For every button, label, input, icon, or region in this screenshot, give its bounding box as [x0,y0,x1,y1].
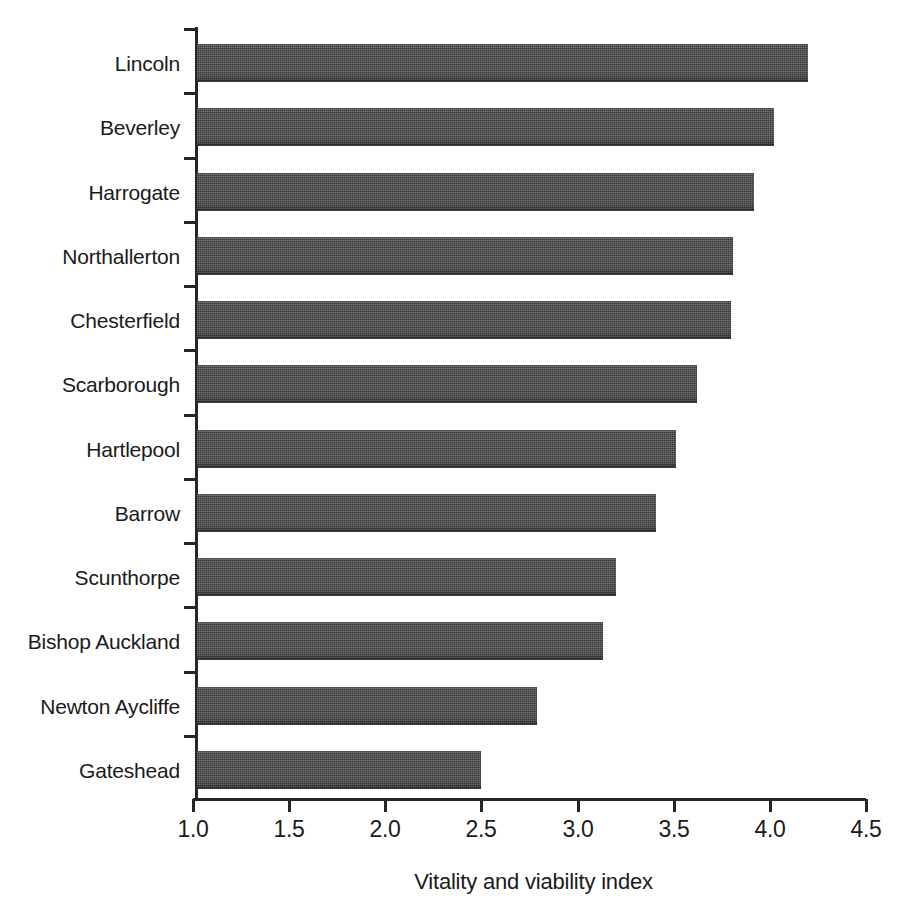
x-axis-tick-label: 2.5 [441,815,521,843]
x-axis-tick-label: 2.0 [345,815,425,843]
y-axis-tick [184,285,198,288]
y-axis-tick [184,157,198,160]
y-axis-tick [184,28,198,31]
y-axis-tick [184,735,198,738]
bar-row: Scunthorpe [0,558,901,596]
bar [197,108,774,146]
x-axis-tick-label: 3.5 [634,815,714,843]
y-axis-tick [184,349,198,352]
bar [197,622,603,660]
bar-row: Beverley [0,108,901,146]
y-axis-tick [184,606,198,609]
y-axis-tick [184,671,198,674]
x-axis-tick [480,799,483,812]
bar-category-label: Harrogate [88,180,180,205]
bar-category-label: Bishop Auckland [28,629,180,654]
y-axis-tick [184,542,198,545]
bar-category-label: Lincoln [115,51,180,76]
x-axis-line [193,798,866,801]
bar-category-label: Newton Aycliffe [40,694,180,719]
bar-row: Barrow [0,494,901,532]
x-axis-tick [769,799,772,812]
bar-category-label: Scarborough [62,372,180,397]
bar-row: Lincoln [0,44,901,82]
bar-row: Hartlepool [0,430,901,468]
bar-row: Gateshead [0,751,901,789]
x-axis-tick [384,799,387,812]
y-axis-tick [184,92,198,95]
bar [197,430,676,468]
bar-category-label: Northallerton [62,244,180,269]
x-axis-tick-label: 3.0 [538,815,618,843]
bar [197,751,481,789]
bar [197,558,616,596]
bar-row: Harrogate [0,173,901,211]
y-axis-tick [184,478,198,481]
y-axis-tick [184,414,198,417]
x-axis-tick [865,799,868,812]
bar-category-label: Barrow [115,501,180,526]
bar [197,44,808,82]
bar-category-label: Gateshead [79,758,180,783]
x-axis-tick-label: 1.5 [249,815,329,843]
bar [197,173,754,211]
x-axis-tick [673,799,676,812]
bar-row: Newton Aycliffe [0,687,901,725]
bar-category-label: Chesterfield [70,308,180,333]
bar-row: Scarborough [0,365,901,403]
bar-row: Chesterfield [0,301,901,339]
x-axis-tick [288,799,291,812]
bar-row: Northallerton [0,237,901,275]
bar-chart-figure: LincolnBeverleyHarrogateNorthallertonChe… [0,0,901,920]
bar [197,301,731,339]
x-axis-title: Vitality and viability index [0,868,901,896]
bar [197,237,733,275]
x-axis-tick-label: 4.0 [730,815,810,843]
x-axis-tick-label: 4.5 [826,815,901,843]
bar [197,365,697,403]
x-axis-tick [577,799,580,812]
bar-row: Bishop Auckland [0,622,901,660]
x-axis-tick-label: 1.0 [153,815,233,843]
plot-area: LincolnBeverleyHarrogateNorthallertonChe… [0,0,901,800]
bar-category-label: Hartlepool [86,437,180,462]
bar-category-label: Beverley [100,115,180,140]
bar [197,494,656,532]
x-axis-tick [192,799,195,812]
y-axis-tick [184,221,198,224]
bar-category-label: Scunthorpe [75,565,180,590]
bar [197,687,537,725]
